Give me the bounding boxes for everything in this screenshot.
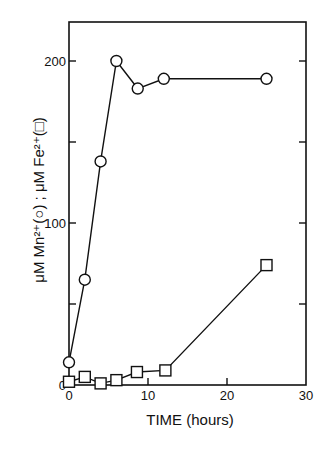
x-tick-label: 10 bbox=[141, 388, 155, 403]
circle-marker bbox=[132, 83, 143, 94]
square-marker bbox=[79, 371, 90, 382]
square-marker bbox=[261, 260, 272, 271]
circle-marker bbox=[64, 357, 75, 368]
square-marker bbox=[95, 378, 106, 389]
square-marker bbox=[64, 376, 75, 387]
circle-marker bbox=[79, 274, 90, 285]
x-tick-label: 30 bbox=[299, 388, 313, 403]
x-axis-title: TIME (hours) bbox=[146, 411, 234, 428]
square-marker bbox=[160, 365, 171, 376]
series-line-mn2 bbox=[69, 61, 267, 362]
circle-marker bbox=[95, 156, 106, 167]
square-marker bbox=[111, 375, 122, 386]
circle-marker bbox=[261, 73, 272, 84]
circle-marker bbox=[111, 56, 122, 67]
y-tick-label: 100 bbox=[44, 216, 66, 231]
circle-marker bbox=[158, 73, 169, 84]
x-tick-label: 0 bbox=[65, 388, 72, 403]
axis-tick-labels: 01020300100200 bbox=[44, 54, 313, 403]
y-axis-title: μM Mn²⁺(○) ; μM Fe²⁺(□) bbox=[30, 117, 47, 283]
chart: 01020300100200 TIME (hours) μM Mn²⁺(○) ;… bbox=[0, 0, 329, 451]
data-series bbox=[64, 56, 273, 389]
square-marker bbox=[131, 367, 142, 378]
x-tick-label: 20 bbox=[220, 388, 234, 403]
y-tick-label: 200 bbox=[44, 54, 66, 69]
axis-ticks bbox=[69, 61, 306, 385]
